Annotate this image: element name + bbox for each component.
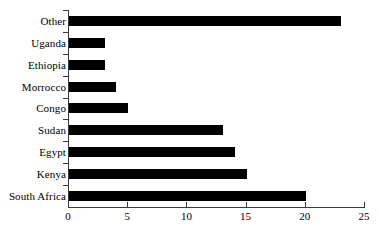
x-axis-tick [127, 202, 128, 208]
category-label-ethiopia: Ethiopia [28, 59, 66, 71]
category-label-south-africa: South Africa [9, 190, 66, 202]
bar-row: Kenya [0, 163, 379, 185]
bar-sudan [69, 125, 223, 135]
bar-row: South Africa [0, 185, 379, 207]
y-axis-tick [63, 185, 68, 186]
bar-row: Other [0, 10, 379, 32]
y-axis-tick [63, 54, 68, 55]
x-axis-tick [305, 202, 306, 208]
x-axis-tick-label: 15 [231, 210, 261, 223]
x-axis-tick-label: 25 [349, 210, 379, 223]
bar-egypt [69, 147, 235, 157]
x-axis-tick-label: 5 [112, 210, 142, 223]
x-axis-line [68, 207, 364, 208]
bar-morrocco [69, 82, 116, 92]
y-axis-tick [63, 119, 68, 120]
bar-row: Morrocco [0, 76, 379, 98]
bar-row: Egypt [0, 141, 379, 163]
x-axis-tick-label: 10 [171, 210, 201, 223]
bar-row: Congo [0, 98, 379, 120]
x-axis-tick-label: 20 [290, 210, 320, 223]
bar-south-africa [69, 191, 306, 201]
x-axis-tick [246, 202, 247, 208]
y-axis-tick [63, 163, 68, 164]
bar-ethiopia [69, 60, 105, 70]
x-axis-tick [364, 202, 365, 208]
category-label-kenya: Kenya [37, 168, 66, 180]
x-axis-tick-label: 0 [53, 210, 83, 223]
category-label-egypt: Egypt [39, 146, 66, 158]
bar-chart: OtherUgandaEthiopiaMorroccoCongoSudanEgy… [0, 0, 379, 230]
y-axis-tick [63, 10, 68, 11]
bar-uganda [69, 38, 105, 48]
category-label-other: Other [40, 15, 66, 27]
y-axis-tick [63, 98, 68, 99]
bar-other [69, 16, 341, 26]
y-axis-tick [63, 76, 68, 77]
category-label-congo: Congo [36, 102, 66, 114]
x-axis-tick [68, 202, 69, 208]
bar-row: Ethiopia [0, 54, 379, 76]
bar-row: Uganda [0, 32, 379, 54]
category-label-uganda: Uganda [31, 37, 66, 49]
y-axis-tick [63, 141, 68, 142]
category-label-morrocco: Morrocco [22, 81, 66, 93]
bar-congo [69, 103, 128, 113]
bar-row: Sudan [0, 119, 379, 141]
bar-kenya [69, 169, 247, 179]
plot-area: OtherUgandaEthiopiaMorroccoCongoSudanEgy… [0, 10, 379, 207]
x-axis-tick [186, 202, 187, 208]
y-axis-tick [63, 32, 68, 33]
category-label-sudan: Sudan [38, 124, 66, 136]
